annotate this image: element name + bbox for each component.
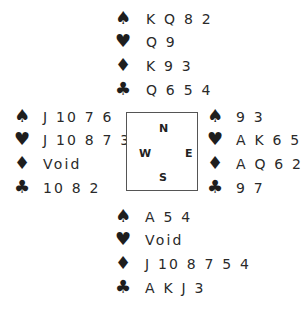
south-diamonds-cards: J 10 8 7 5 4 xyxy=(145,254,251,274)
heart-icon: ♥ xyxy=(12,129,32,149)
spade-icon: ♠ xyxy=(113,206,133,226)
north-diamonds-cards: K 9 3 xyxy=(146,56,193,76)
compass-east: E xyxy=(185,148,193,160)
club-icon: ♣ xyxy=(113,277,133,297)
east-hand: ♠ 9 3 ♥ A K 6 5 4 ♦ A Q 6 2 ♣ 9 7 xyxy=(205,106,308,201)
compass-south: S xyxy=(159,172,167,184)
east-spades-cards: 9 3 xyxy=(236,107,265,127)
compass-box: N W E S xyxy=(126,112,198,191)
club-icon: ♣ xyxy=(12,177,32,197)
spade-icon: ♠ xyxy=(205,106,225,126)
west-hand: ♠ J 10 7 6 ♥ J 10 8 7 3 2 ♦ Void ♣ 10 8 … xyxy=(12,106,127,201)
spade-icon: ♠ xyxy=(12,106,32,126)
heart-icon: ♥ xyxy=(113,229,133,249)
east-clubs-cards: 9 7 xyxy=(236,178,265,198)
south-hand: ♠ A 5 4 ♥ Void ♦ J 10 8 7 5 4 ♣ A K J 3 xyxy=(113,206,243,301)
east-diamonds-cards: A Q 6 2 xyxy=(236,154,303,174)
diamond-icon: ♦ xyxy=(205,153,225,173)
east-hearts-cards: A K 6 5 4 xyxy=(236,130,308,150)
west-clubs-cards: 10 8 2 xyxy=(43,178,101,198)
diamond-icon: ♦ xyxy=(113,55,133,75)
west-spades-cards: J 10 7 6 xyxy=(43,107,114,127)
north-hearts-cards: Q 9 xyxy=(146,32,177,52)
spade-icon: ♠ xyxy=(113,8,133,28)
south-hearts-cards: Void xyxy=(145,230,184,250)
compass-west: W xyxy=(139,148,151,160)
north-spades-cards: K Q 8 2 xyxy=(146,9,213,29)
north-hand: ♠ K Q 8 2 ♥ Q 9 ♦ K 9 3 ♣ Q 6 5 4 xyxy=(113,8,233,103)
compass-north: N xyxy=(159,123,168,135)
heart-icon: ♥ xyxy=(205,129,225,149)
diamond-icon: ♦ xyxy=(12,153,32,173)
diamond-icon: ♦ xyxy=(113,253,133,273)
south-clubs-cards: A K J 3 xyxy=(145,278,206,298)
club-icon: ♣ xyxy=(113,79,133,99)
south-spades-cards: A 5 4 xyxy=(145,207,192,227)
club-icon: ♣ xyxy=(205,177,225,197)
west-diamonds-cards: Void xyxy=(43,154,82,174)
north-clubs-cards: Q 6 5 4 xyxy=(146,80,213,100)
heart-icon: ♥ xyxy=(113,31,133,51)
